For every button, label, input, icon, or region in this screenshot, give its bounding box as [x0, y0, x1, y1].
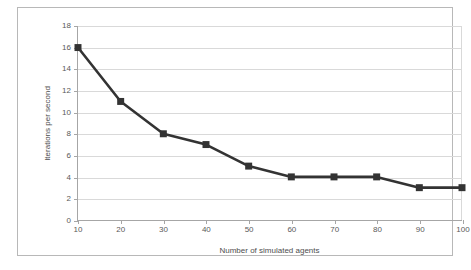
data-point-marker — [416, 184, 423, 191]
x-tick-label: 100 — [456, 226, 469, 234]
x-tick-mark — [164, 220, 165, 224]
data-series-line — [78, 26, 462, 220]
y-tick-label: 10 — [62, 109, 71, 117]
x-tick-mark — [420, 220, 421, 224]
x-tick-mark — [249, 220, 250, 224]
data-point-marker — [160, 130, 167, 137]
x-tick-label: 70 — [330, 226, 339, 234]
figure-container: 024681012141618 102030405060708090100 It… — [0, 0, 471, 270]
x-tick-label: 20 — [116, 226, 125, 234]
data-point-marker — [373, 173, 380, 180]
data-point-marker — [75, 44, 82, 51]
x-tick-label: 60 — [287, 226, 296, 234]
y-tick-label: 14 — [62, 65, 71, 73]
x-tick-label: 50 — [245, 226, 254, 234]
series-polyline — [78, 48, 462, 188]
x-tick-label: 30 — [159, 226, 168, 234]
data-point-marker — [117, 98, 124, 105]
x-axis-title: Number of simulated agents — [77, 246, 462, 256]
data-point-marker — [459, 184, 466, 191]
data-point-marker — [245, 163, 252, 170]
data-point-marker — [288, 173, 295, 180]
x-tick-label: 80 — [373, 226, 382, 234]
y-tick-label: 12 — [62, 87, 71, 95]
y-axis-title: Iterations per second — [42, 26, 54, 221]
series-markers — [75, 44, 466, 191]
y-tick-label: 6 — [67, 152, 71, 160]
y-tick-label: 0 — [67, 217, 71, 225]
x-tick-mark — [292, 220, 293, 224]
x-tick-mark — [335, 220, 336, 224]
y-tick-label: 16 — [62, 44, 71, 52]
data-point-marker — [331, 173, 338, 180]
x-tick-label: 10 — [74, 226, 83, 234]
x-tick-label: 40 — [202, 226, 211, 234]
x-tick-mark — [78, 220, 79, 224]
x-tick-mark — [206, 220, 207, 224]
y-tick-label: 8 — [67, 130, 71, 138]
x-tick-mark — [377, 220, 378, 224]
y-tick-label: 2 — [67, 195, 71, 203]
y-tick-label: 4 — [67, 174, 71, 182]
plot-area: 024681012141618 102030405060708090100 — [77, 26, 462, 221]
x-tick-mark — [463, 220, 464, 224]
x-tick-label: 90 — [416, 226, 425, 234]
data-point-marker — [203, 141, 210, 148]
y-tick-label: 18 — [62, 22, 71, 30]
chart-frame: 024681012141618 102030405060708090100 It… — [17, 7, 453, 256]
x-tick-mark — [121, 220, 122, 224]
